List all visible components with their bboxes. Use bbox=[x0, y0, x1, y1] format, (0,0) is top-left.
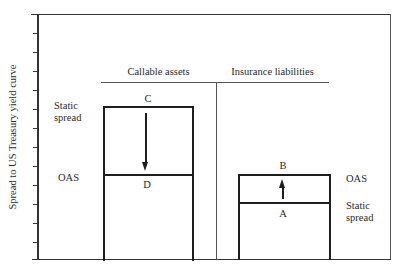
y-axis-label: Spread to US Treasury yield curve bbox=[7, 65, 18, 210]
point-a-label: A bbox=[273, 208, 293, 220]
y-tick bbox=[33, 52, 38, 53]
frame-right-line bbox=[390, 14, 391, 259]
arrow-down-icon bbox=[142, 162, 148, 171]
callable-assets-header: Callable assets bbox=[101, 66, 216, 78]
left-static-spread-label: Static spread bbox=[54, 100, 81, 124]
column-divider bbox=[216, 82, 217, 259]
y-tick bbox=[33, 223, 38, 224]
header-underline bbox=[101, 82, 329, 83]
y-tick bbox=[33, 166, 38, 167]
arrow-up-icon bbox=[279, 179, 285, 188]
insurance-static-spread-line bbox=[238, 202, 331, 204]
y-tick bbox=[33, 109, 38, 110]
point-c-label: C bbox=[138, 93, 158, 105]
left-oas-label: OAS bbox=[58, 172, 79, 184]
y-tick bbox=[33, 147, 38, 148]
right-oas-label: OAS bbox=[346, 173, 367, 185]
y-tick bbox=[33, 128, 38, 129]
arrow-c-to-d-shaft bbox=[145, 113, 147, 163]
y-tick bbox=[33, 242, 38, 243]
arrow-a-to-b-shaft bbox=[282, 187, 284, 199]
insurance-liabilities-header: Insurance liabilities bbox=[216, 66, 329, 78]
x-axis-line bbox=[32, 259, 391, 260]
y-tick bbox=[33, 71, 38, 72]
y-tick bbox=[33, 90, 38, 91]
y-tick bbox=[33, 33, 38, 34]
point-d-label: D bbox=[137, 179, 157, 191]
frame-top-line bbox=[31, 14, 391, 15]
y-tick bbox=[33, 185, 38, 186]
y-tick bbox=[33, 204, 38, 205]
point-b-label: B bbox=[273, 160, 293, 172]
right-static-spread-label: Static spread bbox=[346, 200, 373, 224]
callable-oas-line bbox=[103, 174, 194, 176]
